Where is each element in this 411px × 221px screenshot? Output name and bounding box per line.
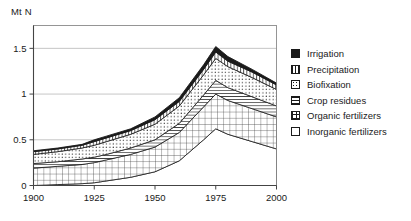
legend-item-label: Inorganic fertilizers bbox=[307, 126, 387, 137]
x-tick-label: 2000 bbox=[266, 192, 287, 203]
legend-item: Biofixation bbox=[291, 79, 387, 90]
legend-item: Inorganic fertilizers bbox=[291, 126, 387, 137]
x-tick-label: 1975 bbox=[205, 192, 226, 203]
legend-item: Precipitation bbox=[291, 64, 387, 75]
y-tick-label: 0.5 bbox=[13, 134, 26, 145]
stacked-areas bbox=[34, 47, 277, 186]
empty-swatch bbox=[291, 127, 300, 136]
legend-item-label: Crop residues bbox=[307, 95, 366, 106]
legend-item-label: Precipitation bbox=[307, 64, 359, 75]
horizontal-hatch-swatch bbox=[291, 96, 300, 105]
legend-item-label: Organic fertilizers bbox=[307, 110, 381, 121]
figure-container: Mt N bbox=[0, 0, 411, 221]
legend-item: Organic fertilizers bbox=[291, 110, 387, 121]
y-tick-label: 1.5 bbox=[13, 43, 26, 54]
solid-black-swatch bbox=[291, 49, 300, 58]
vertical-hatch-swatch bbox=[291, 65, 300, 74]
dots-swatch bbox=[291, 80, 300, 89]
legend-item-label: Irrigation bbox=[307, 48, 344, 59]
legend-item-label: Biofixation bbox=[307, 79, 351, 90]
x-tick-label: 1925 bbox=[84, 192, 105, 203]
x-tick-label: 1900 bbox=[23, 192, 44, 203]
grid-swatch bbox=[291, 111, 300, 120]
chart-legend: IrrigationPrecipitationBiofixationCrop r… bbox=[291, 48, 387, 137]
legend-item: Crop residues bbox=[291, 95, 387, 106]
legend-item: Irrigation bbox=[291, 48, 387, 59]
x-tick-label: 1950 bbox=[144, 192, 165, 203]
y-tick-label: 1 bbox=[21, 88, 26, 99]
y-tick-label: 0 bbox=[21, 180, 26, 191]
